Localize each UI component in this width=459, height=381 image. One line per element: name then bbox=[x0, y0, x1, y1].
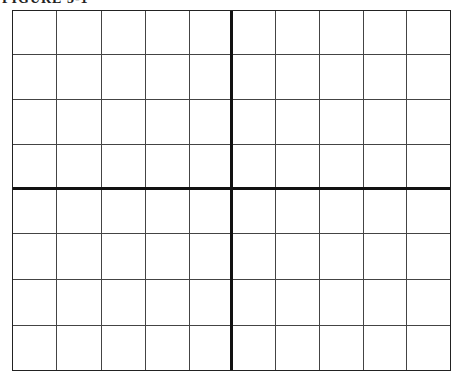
grid-line-vertical bbox=[145, 11, 146, 370]
grid-line-vertical bbox=[101, 11, 102, 370]
y-axis bbox=[230, 11, 233, 370]
grid-line-vertical bbox=[189, 11, 190, 370]
figure-caption: FIGURE 3-1 bbox=[2, 0, 89, 7]
x-axis bbox=[13, 187, 450, 190]
grid-line-vertical bbox=[363, 11, 364, 370]
grid-line-vertical bbox=[406, 11, 407, 370]
grid-line-vertical bbox=[56, 11, 57, 370]
coordinate-grid bbox=[12, 10, 451, 371]
grid-line-vertical bbox=[275, 11, 276, 370]
grid-line-vertical bbox=[319, 11, 320, 370]
